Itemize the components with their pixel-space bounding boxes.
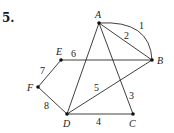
vertex-D [65, 112, 69, 116]
edge-label-3: 3 [129, 90, 134, 101]
vertex-label-F: F [26, 82, 34, 93]
vertex-B [150, 58, 154, 62]
edge-label-8: 8 [44, 100, 49, 111]
edge-A-D [67, 23, 99, 114]
edge-label-6: 6 [71, 48, 76, 59]
edge-label-2: 2 [124, 30, 129, 41]
edge-label-4: 4 [96, 116, 101, 127]
edge-8-F-D [38, 87, 67, 114]
edge-labels: 1 2 3 4 5 6 7 8 [40, 20, 144, 127]
edge-label-5: 5 [94, 82, 99, 93]
edge-2-A-B [99, 23, 152, 60]
vertex-F [36, 85, 40, 89]
vertex-C [131, 112, 135, 116]
vertex-E [59, 58, 63, 62]
vertex-label-C: C [129, 118, 136, 129]
vertex-label-D: D [62, 118, 71, 129]
edges [38, 23, 152, 114]
vertex-label-A: A [94, 9, 102, 20]
edge-label-7: 7 [40, 65, 45, 76]
vertex-label-B: B [157, 55, 163, 66]
graph-diagram: A B C D E F 1 2 3 4 5 6 7 8 [0, 0, 174, 133]
vertex-label-E: E [55, 46, 62, 57]
edge-label-1: 1 [139, 20, 144, 31]
vertex-A [97, 21, 101, 25]
edge-5-D-B [67, 60, 152, 114]
